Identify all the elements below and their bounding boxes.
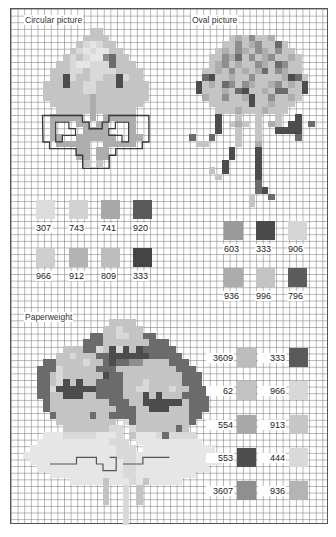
thread-code-label: 796 <box>287 291 304 301</box>
color-swatch <box>101 248 120 267</box>
thread-code-label: 603 <box>223 244 240 254</box>
thread-code-label: 3607 <box>206 486 234 496</box>
color-swatch <box>288 221 307 240</box>
thread-code-label: 333 <box>132 271 149 281</box>
thread-code-label: 936 <box>223 291 240 301</box>
color-swatch <box>133 248 152 267</box>
color-swatch <box>224 268 243 287</box>
color-swatch <box>101 200 120 219</box>
color-swatch <box>289 481 308 500</box>
thread-code-label: 936 <box>258 486 286 496</box>
thread-code-label: 913 <box>258 420 286 430</box>
color-swatch <box>256 268 275 287</box>
thread-code-label: 3609 <box>206 353 234 363</box>
color-swatch <box>289 381 308 400</box>
thread-code-label: 966 <box>258 386 286 396</box>
thread-code-label: 307 <box>35 223 52 233</box>
thread-code-label: 743 <box>68 223 85 233</box>
color-swatch <box>288 268 307 287</box>
color-swatch <box>237 381 256 400</box>
thread-code-label: 809 <box>100 271 117 281</box>
thread-code-label: 333 <box>258 353 286 363</box>
thread-code-label: 996 <box>255 291 272 301</box>
color-swatch <box>36 248 55 267</box>
color-swatch <box>289 448 308 467</box>
thread-code-label: 920 <box>132 223 149 233</box>
color-swatch <box>237 348 256 367</box>
color-swatch <box>289 415 308 434</box>
color-swatch <box>69 248 88 267</box>
color-swatch <box>133 200 152 219</box>
thread-code-label: 966 <box>35 271 52 281</box>
thread-code-label: 444 <box>258 453 286 463</box>
color-swatch <box>237 415 256 434</box>
thread-code-label: 741 <box>100 223 117 233</box>
color-swatch <box>237 448 256 467</box>
thread-code-label: 333 <box>255 244 272 254</box>
thread-code-label: 553 <box>206 453 234 463</box>
thread-code-label: 554 <box>206 420 234 430</box>
color-swatch <box>289 348 308 367</box>
thread-color-legend: 3077437419206033339069669128093339369967… <box>0 0 336 537</box>
thread-code-label: 906 <box>287 244 304 254</box>
color-swatch <box>224 221 243 240</box>
thread-code-label: 62 <box>206 386 234 396</box>
color-swatch <box>256 221 275 240</box>
color-swatch <box>69 200 88 219</box>
color-swatch <box>237 481 256 500</box>
color-swatch <box>36 200 55 219</box>
thread-code-label: 912 <box>68 271 85 281</box>
